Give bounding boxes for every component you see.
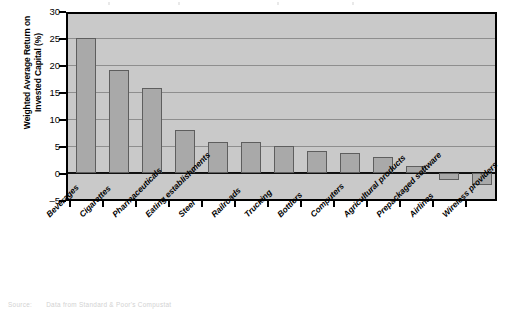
- gridline-25: [68, 38, 495, 39]
- y-axis-title-line-2: Invested Capital (%): [32, 0, 43, 157]
- y-tick-label-10: 10: [26, 115, 60, 124]
- gridline-20: [68, 65, 495, 66]
- source-note: Source:Data from Standard & Poor's Compu…: [8, 301, 171, 308]
- bar-cigarettes: [109, 70, 129, 173]
- x-tick-mark-0: [69, 201, 71, 207]
- x-tick-mark-10: [399, 201, 401, 207]
- y-tick-mark-25: [59, 38, 66, 40]
- x-tick-mark-8: [333, 201, 335, 207]
- x-tick-mark-4: [201, 201, 203, 207]
- x-tick-mark-12: [465, 201, 467, 207]
- cropped-text-artifact: [0, 0, 513, 6]
- bar-trucking: [274, 146, 294, 173]
- gridline-10: [68, 119, 495, 120]
- y-tick-mark-20: [59, 65, 66, 67]
- gridline-15: [68, 92, 495, 93]
- bar-bottlers: [307, 151, 327, 173]
- bar-airlines: [439, 173, 459, 180]
- x-tick-mark-7: [300, 201, 302, 207]
- x-label-steel: Steel: [176, 198, 197, 219]
- x-tick-mark-5: [234, 201, 236, 207]
- x-tick-mark-3: [168, 201, 170, 207]
- y-tick-mark-10: [59, 119, 66, 121]
- y-axis-title-line-1: Weighted Average Return on: [22, 0, 33, 157]
- bar-beverages: [76, 38, 96, 173]
- y-tick-label-30: 30: [26, 7, 60, 16]
- x-tick-mark-11: [432, 201, 434, 207]
- y-axis-title: Weighted Average Return on Invested Capi…: [22, 0, 43, 157]
- bar-chart-figure: Weighted Average Return on Invested Capi…: [0, 0, 513, 313]
- x-tick-mark-1: [102, 201, 104, 207]
- x-tick-mark-2: [135, 201, 137, 207]
- plot-area: [66, 12, 497, 201]
- x-tick-mark-9: [366, 201, 368, 207]
- y-tick-label-20: 20: [26, 61, 60, 70]
- y-tick-mark-30: [59, 11, 66, 13]
- source-note-lead: Source:: [8, 301, 32, 308]
- y-tick-mark-5: [59, 146, 66, 148]
- bar-computers: [340, 153, 360, 173]
- y-tick-label-25: 25: [26, 34, 60, 43]
- y-tick-label-5: 5: [26, 142, 60, 151]
- x-tick-mark-6: [267, 201, 269, 207]
- y-tick-mark-0: [59, 173, 66, 175]
- source-note-text: Data from Standard & Poor's Compustat: [46, 301, 171, 308]
- bar-railroads: [241, 142, 261, 173]
- y-tick-label-0: 0: [26, 169, 60, 178]
- y-tick-label-15: 15: [26, 88, 60, 97]
- y-tick-mark-15: [59, 92, 66, 94]
- bar-pharmaceuticals: [142, 88, 162, 173]
